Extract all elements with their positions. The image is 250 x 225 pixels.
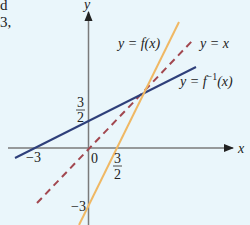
y-axis-label: y (82, 0, 91, 12)
x-axis-label: x (237, 141, 245, 156)
origin-label: 0 (91, 151, 98, 166)
x-tick-3half-den: 2 (114, 167, 121, 182)
y-tick-3half-num: 3 (77, 95, 84, 110)
f-inverse-label: y = f−1(x) (178, 71, 233, 90)
y-tick-neg3: −3 (71, 199, 86, 214)
identity-label: y = x (198, 36, 230, 51)
f-inverse-line (15, 67, 196, 158)
x-tick-3half-num: 3 (114, 151, 121, 166)
f-line (79, 22, 179, 225)
graph: x y 0 −3 3 2 3 2 −3 y = f(x) y = x y = f… (0, 0, 250, 225)
f-label: y = f(x) (116, 36, 160, 52)
x-tick-neg3: −3 (26, 150, 41, 165)
y-tick-3half-den: 2 (77, 110, 84, 125)
